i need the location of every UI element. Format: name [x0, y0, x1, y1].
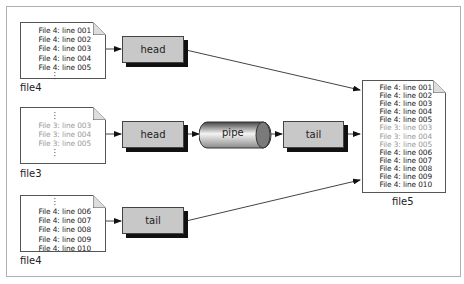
file-line: File 3: line 004: [39, 130, 91, 139]
file-document-file5: File 4: line 001 File 4: line 002 File 4…: [362, 80, 446, 193]
tail-process-box: tail: [283, 121, 344, 148]
file-document-file3: ··· File 3: line 003 File 3: line 004 Fi…: [20, 107, 106, 164]
file-line: File 4: line 009: [39, 235, 91, 244]
file-line: File 4: line 010: [39, 244, 91, 253]
file-line: File 4: line 003: [39, 44, 91, 53]
file-label: file4: [20, 82, 42, 93]
file-line: File 4: line 007: [39, 216, 91, 225]
file-lines: File 4: line 001 File 4: line 002 File 4…: [39, 26, 91, 81]
file-line: File 3: line 005: [39, 139, 91, 148]
file-lines: ··· File 3: line 003 File 3: line 004 Fi…: [39, 112, 91, 158]
file-document-file4-bottom: ··· File 4: line 006 File 4: line 007 Fi…: [20, 195, 106, 252]
file-line: File 4: line 004: [39, 54, 91, 63]
ellipsis-vertical-icon: ···: [39, 149, 71, 158]
folded-corner-icon: [93, 195, 106, 208]
tail-process-box: tail: [122, 207, 184, 234]
file-lines: File 4: line 001 File 4: line 002 File 4…: [380, 84, 432, 189]
file-line: File 4: line 001: [39, 26, 91, 35]
head-process-box: head: [122, 36, 184, 63]
pipe-label: pipe: [222, 127, 244, 138]
file-line: File 3: line 003: [39, 121, 91, 130]
folded-corner-icon: [433, 80, 446, 93]
folded-corner-icon: [93, 107, 106, 120]
file-line: File 4: line 002: [39, 35, 91, 44]
file-line: File 4: line 010: [380, 181, 432, 189]
ellipsis-vertical-icon: ···: [39, 72, 71, 81]
file-line: File 4: line 006: [39, 207, 91, 216]
file-lines: ··· File 4: line 006 File 4: line 007 Fi…: [39, 198, 91, 253]
ellipsis-vertical-icon: ···: [39, 112, 71, 121]
file-line: File 4: line 008: [39, 225, 91, 234]
file-document-file4-top: File 4: line 001 File 4: line 002 File 4…: [20, 22, 106, 79]
ellipsis-vertical-icon: ···: [39, 198, 71, 207]
file-label: file5: [392, 196, 414, 207]
file-label: file4: [20, 255, 42, 266]
file-line: File 4: line 005: [39, 63, 91, 72]
folded-corner-icon: [93, 22, 106, 35]
file-label: file3: [20, 168, 42, 179]
head-process-box: head: [122, 121, 184, 148]
